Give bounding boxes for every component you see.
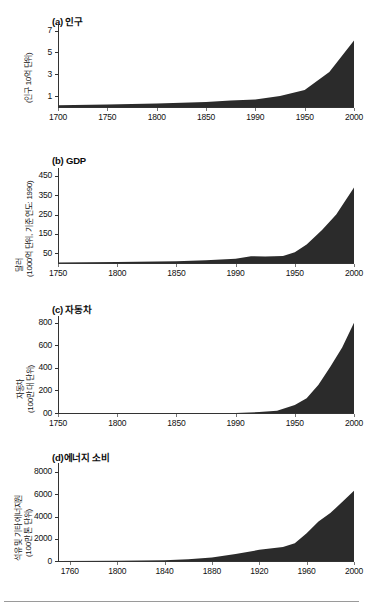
x-tick-label: 1950 bbox=[287, 112, 323, 122]
x-tick-mark bbox=[176, 414, 177, 417]
x-tick-mark bbox=[117, 264, 118, 267]
y-tick-label: 350 bbox=[18, 190, 52, 200]
y-tick-mark bbox=[55, 323, 58, 324]
x-tick-label: 1880 bbox=[194, 566, 230, 576]
x-tick-label: 1850 bbox=[158, 418, 194, 428]
chart-panel-automobiles: (c) 자동차 자동차 (100만 대 단위) 0020040060080017… bbox=[0, 295, 363, 445]
area-series-gdp bbox=[58, 168, 354, 263]
y-axis-line bbox=[58, 316, 59, 413]
x-tick-mark bbox=[295, 264, 296, 267]
y-tick-label: 50 bbox=[18, 248, 52, 258]
y-tick-mark bbox=[55, 52, 58, 53]
plot-area-gdp: 50150250350450175018001850199019502000 bbox=[58, 168, 354, 263]
y-tick-label: 0 bbox=[18, 556, 52, 566]
y-tick-mark bbox=[55, 472, 58, 473]
y-tick-mark bbox=[55, 517, 58, 518]
x-tick-label: 1800 bbox=[99, 566, 135, 576]
x-tick-mark bbox=[354, 414, 355, 417]
y-tick-mark bbox=[55, 390, 58, 391]
x-tick-label: 1950 bbox=[277, 268, 313, 278]
x-axis-line bbox=[58, 413, 354, 414]
chart-panel-gdp: (b) GDP 달러 (1000억 단위, 기준 연도: 1990) 50150… bbox=[0, 150, 363, 295]
area-fill bbox=[58, 40, 354, 107]
x-tick-label: 2000 bbox=[336, 268, 368, 278]
y-tick-label: 600 bbox=[18, 340, 52, 350]
x-tick-label: 1990 bbox=[237, 112, 273, 122]
area-fill bbox=[58, 491, 354, 561]
x-axis-line bbox=[58, 561, 354, 562]
area-fill bbox=[58, 323, 354, 413]
y-tick-mark bbox=[55, 234, 58, 235]
y-axis-line bbox=[58, 463, 59, 561]
x-tick-label: 1850 bbox=[158, 268, 194, 278]
x-tick-label: 2000 bbox=[336, 418, 368, 428]
y-tick-mark bbox=[55, 561, 58, 562]
y-tick-mark bbox=[55, 74, 58, 75]
area-series-population bbox=[58, 24, 354, 107]
y-tick-mark bbox=[55, 345, 58, 346]
y-tick-label: 1 bbox=[18, 91, 52, 101]
y-tick-label: 5 bbox=[18, 47, 52, 57]
x-tick-mark bbox=[295, 414, 296, 417]
x-tick-label: 1950 bbox=[277, 418, 313, 428]
x-tick-mark bbox=[206, 108, 207, 111]
y-tick-label: 2000 bbox=[18, 533, 52, 543]
x-tick-label: 2000 bbox=[336, 112, 368, 122]
x-tick-mark bbox=[165, 562, 166, 565]
x-tick-label: 1750 bbox=[40, 418, 76, 428]
x-tick-label: 1850 bbox=[188, 112, 224, 122]
area-series-energy bbox=[58, 463, 354, 561]
y-axis-line bbox=[58, 24, 59, 107]
x-tick-mark bbox=[176, 264, 177, 267]
y-tick-label: 200 bbox=[18, 385, 52, 395]
x-tick-mark bbox=[354, 264, 355, 267]
panel-title-energy: (d)에너지 소비 bbox=[52, 450, 110, 464]
x-tick-label: 1800 bbox=[139, 112, 175, 122]
x-tick-label: 1990 bbox=[218, 418, 254, 428]
x-tick-mark bbox=[157, 108, 158, 111]
footer-divider bbox=[4, 601, 359, 602]
x-tick-mark bbox=[107, 108, 108, 111]
x-tick-mark bbox=[58, 108, 59, 111]
x-tick-mark bbox=[307, 562, 308, 565]
y-tick-mark bbox=[55, 96, 58, 97]
y-tick-label: 4000 bbox=[18, 511, 52, 521]
y-tick-mark bbox=[55, 494, 58, 495]
x-tick-mark bbox=[117, 562, 118, 565]
y-tick-mark bbox=[55, 253, 58, 254]
x-tick-mark bbox=[70, 562, 71, 565]
plot-area-automobiles: 00200400600800175018001850199019502000 bbox=[58, 316, 354, 413]
y-tick-label: 8000 bbox=[18, 466, 52, 476]
y-tick-label: 450 bbox=[18, 170, 52, 180]
panel-title-automobiles: (c) 자동차 bbox=[52, 302, 92, 316]
y-tick-label: 00 bbox=[18, 408, 52, 418]
y-tick-mark bbox=[55, 195, 58, 196]
x-tick-label: 1800 bbox=[99, 418, 135, 428]
y-axis-line bbox=[58, 168, 59, 263]
x-tick-mark bbox=[117, 414, 118, 417]
x-tick-mark bbox=[305, 108, 306, 111]
x-tick-mark bbox=[58, 264, 59, 267]
x-tick-label: 1800 bbox=[99, 268, 135, 278]
x-tick-mark bbox=[259, 562, 260, 565]
plot-area-population: 13571700175018001850199019502000 bbox=[58, 24, 354, 107]
x-tick-mark bbox=[354, 108, 355, 111]
y-tick-mark bbox=[55, 368, 58, 369]
area-fill bbox=[58, 187, 354, 263]
x-tick-label: 1760 bbox=[52, 566, 88, 576]
x-tick-label: 1920 bbox=[241, 566, 277, 576]
x-tick-label: 2000 bbox=[336, 566, 368, 576]
y-tick-mark bbox=[55, 539, 58, 540]
x-tick-mark bbox=[236, 414, 237, 417]
y-tick-label: 6000 bbox=[18, 489, 52, 499]
y-tick-label: 250 bbox=[18, 209, 52, 219]
x-tick-label: 1750 bbox=[40, 268, 76, 278]
x-axis-line bbox=[58, 263, 354, 264]
y-tick-label: 7 bbox=[18, 25, 52, 35]
area-series-automobiles bbox=[58, 316, 354, 413]
chart-panel-population: (a) 인구 (인구 10억 단위) 135717001750180018501… bbox=[0, 0, 363, 150]
y-tick-label: 800 bbox=[18, 317, 52, 327]
x-tick-label: 1840 bbox=[147, 566, 183, 576]
x-tick-label: 1990 bbox=[218, 268, 254, 278]
